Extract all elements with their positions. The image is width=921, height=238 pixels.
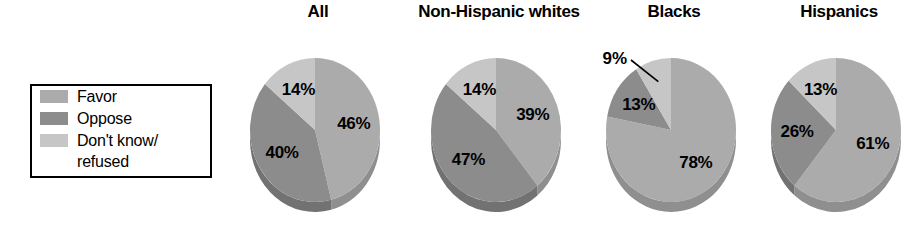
pie-graphic: 39%47%14% (424, 52, 574, 227)
pie-slice-label-oppose: 26% (781, 122, 814, 141)
pie-chart-row: All46%40%14%Non-Hispanic whites39%47%14%… (0, 0, 921, 238)
pie-slice-label-oppose: 47% (452, 150, 485, 169)
pie-graphic: 78%13%9% (599, 52, 749, 227)
pie-slice-label-oppose: 40% (266, 143, 299, 162)
pie-chart-title: Hispanics (757, 2, 921, 22)
pie-slice-label-favor: 46% (337, 114, 370, 133)
pie-chart-4: Hispanics61%26%13% (757, 0, 921, 238)
pie-chart-title: Non-Hispanic whites (411, 2, 587, 22)
pie-chart-2: Non-Hispanic whites39%47%14% (411, 0, 587, 238)
pie-slice-label-dontknow: 14% (463, 80, 496, 99)
pie-slice-label-oppose: 13% (622, 95, 655, 114)
pie-slice-label-favor: 39% (516, 105, 549, 124)
pie-slice-label-dontknow: 14% (282, 80, 315, 99)
pie-chart-3: Blacks78%13%9% (586, 0, 762, 238)
pie-slice-label-dontknow: 9% (602, 52, 627, 68)
pie-chart-1: All46%40%14% (230, 0, 406, 238)
pie-chart-title: Blacks (586, 2, 762, 22)
pie-chart-title: All (230, 2, 406, 22)
pie-graphic: 46%40%14% (243, 52, 393, 227)
pie-slice-label-favor: 78% (679, 153, 712, 172)
pie-slice-label-favor: 61% (856, 134, 889, 153)
pie-graphic: 61%26%13% (764, 52, 914, 227)
pie-slice-label-dontknow: 13% (804, 80, 837, 99)
